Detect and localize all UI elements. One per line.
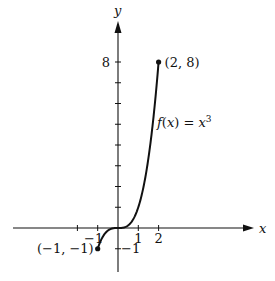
function-curve [98,62,159,249]
x-tick-label: 2 [154,231,162,246]
endpoint-label: (2, 8) [165,55,200,70]
endpoint-dot [156,59,161,64]
x-axis-arrow-icon [243,225,254,232]
x-axis-label: x [259,221,267,236]
y-tick-label: −1 [121,241,140,256]
fn-equals: = [179,115,198,130]
endpoint-dot [95,246,100,251]
chart-canvas: x y −1128−1 (−1, −1)(2, 8) f(x) = x3 [0,0,275,281]
y-axis-label: y [113,3,122,18]
fn-exponent: 3 [206,114,212,124]
function-plot: x y −1128−1 (−1, −1)(2, 8) f(x) = x3 [0,0,275,281]
endpoint-label: (−1, −1) [37,241,94,256]
y-tick-label: 8 [102,55,110,70]
y-axis-arrow-icon [115,21,122,33]
function-label: f(x) = x3 [156,114,212,130]
tick-labels: −1128−1 [84,55,163,257]
